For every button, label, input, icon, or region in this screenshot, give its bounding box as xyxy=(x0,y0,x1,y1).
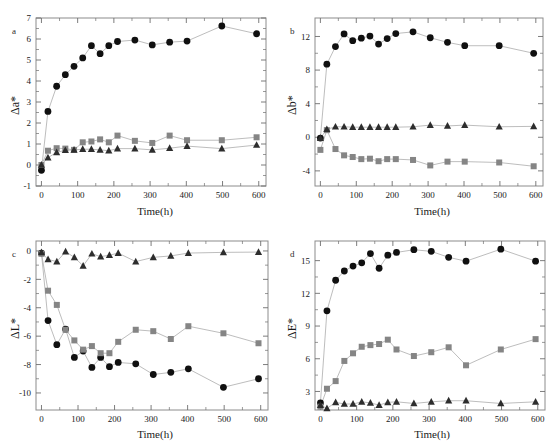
svg-text:12: 12 xyxy=(301,289,310,299)
svg-text:-1: -1 xyxy=(24,181,32,191)
panel-b-letter: b xyxy=(290,26,295,36)
svg-text:7: 7 xyxy=(27,13,32,23)
svg-text:500: 500 xyxy=(217,414,231,424)
svg-text:-2: -2 xyxy=(24,275,32,285)
svg-text:0: 0 xyxy=(318,414,323,424)
svg-text:200: 200 xyxy=(107,190,121,200)
panel-a-plot: 0100200300400500600-101234567 xyxy=(0,0,277,224)
panel-c-xaxis-title: Time(h) xyxy=(70,428,240,440)
svg-text:600: 600 xyxy=(531,414,545,424)
svg-text:1: 1 xyxy=(27,139,32,149)
panel-d-yaxis-title: ΔE* xyxy=(285,318,300,339)
panel-d-xaxis-title: Time(h) xyxy=(347,428,517,440)
svg-text:4: 4 xyxy=(306,99,311,109)
svg-text:0: 0 xyxy=(39,414,44,424)
svg-text:9: 9 xyxy=(306,321,311,331)
svg-text:100: 100 xyxy=(71,414,85,424)
svg-text:600: 600 xyxy=(254,414,268,424)
svg-text:-8: -8 xyxy=(24,360,32,370)
panel-a-letter: a xyxy=(12,26,16,36)
svg-text:600: 600 xyxy=(252,190,266,200)
svg-text:6: 6 xyxy=(27,34,32,44)
panel-d-plot: 01002003004005006003691215 xyxy=(277,224,554,447)
panel-d-letter: d xyxy=(290,249,295,259)
svg-text:200: 200 xyxy=(385,190,399,200)
svg-text:0: 0 xyxy=(27,246,32,256)
svg-text:100: 100 xyxy=(71,190,85,200)
svg-text:-6: -6 xyxy=(24,331,32,341)
svg-text:400: 400 xyxy=(181,414,195,424)
svg-text:200: 200 xyxy=(386,414,400,424)
svg-text:-4: -4 xyxy=(24,303,32,313)
svg-text:500: 500 xyxy=(216,190,230,200)
svg-text:0: 0 xyxy=(39,190,44,200)
svg-text:400: 400 xyxy=(459,414,473,424)
svg-text:500: 500 xyxy=(493,190,507,200)
svg-text:0: 0 xyxy=(27,160,32,170)
panel-a-xaxis-title: Time(h) xyxy=(70,205,240,217)
svg-text:300: 300 xyxy=(422,414,436,424)
panel-d: 01002003004005006003691215 d Time(h) ΔE* xyxy=(277,224,554,447)
svg-text:2: 2 xyxy=(27,118,32,128)
svg-text:600: 600 xyxy=(529,190,543,200)
panel-c-plot: 01002003004005006000-2-4-6-8-10 xyxy=(0,224,277,447)
svg-text:500: 500 xyxy=(495,414,509,424)
svg-text:6: 6 xyxy=(306,354,311,364)
svg-text:-10: -10 xyxy=(19,388,31,398)
svg-text:15: 15 xyxy=(301,256,311,266)
svg-text:12: 12 xyxy=(301,32,310,42)
svg-text:8: 8 xyxy=(306,65,311,75)
panel-b: 0100200300400500600-404812 b Time(h) Δb* xyxy=(277,0,554,224)
svg-text:5: 5 xyxy=(27,55,32,65)
svg-text:400: 400 xyxy=(457,190,471,200)
svg-text:300: 300 xyxy=(421,190,435,200)
panel-c-yaxis-title: ΔL* xyxy=(8,318,23,339)
svg-text:0: 0 xyxy=(306,132,311,142)
panel-b-xaxis-title: Time(h) xyxy=(347,205,517,217)
svg-text:100: 100 xyxy=(350,414,364,424)
svg-text:4: 4 xyxy=(27,76,32,86)
svg-text:-4: -4 xyxy=(303,166,311,176)
panel-c: 01002003004005006000-2-4-6-8-10 c Time(h… xyxy=(0,224,277,447)
panel-a-yaxis-title: Δa* xyxy=(8,96,23,115)
svg-text:400: 400 xyxy=(180,190,194,200)
svg-text:300: 300 xyxy=(144,414,158,424)
panel-b-yaxis-title: Δb* xyxy=(285,95,300,115)
panel-c-letter: c xyxy=(12,249,16,259)
svg-text:200: 200 xyxy=(108,414,122,424)
svg-text:100: 100 xyxy=(350,190,364,200)
svg-text:0: 0 xyxy=(318,190,323,200)
figure-container: 0100200300400500600-101234567 a Time(h) … xyxy=(0,0,554,447)
panel-b-plot: 0100200300400500600-404812 xyxy=(277,0,554,224)
svg-text:3: 3 xyxy=(306,387,311,397)
svg-text:300: 300 xyxy=(143,190,157,200)
panel-a: 0100200300400500600-101234567 a Time(h) … xyxy=(0,0,277,224)
svg-text:3: 3 xyxy=(27,97,32,107)
